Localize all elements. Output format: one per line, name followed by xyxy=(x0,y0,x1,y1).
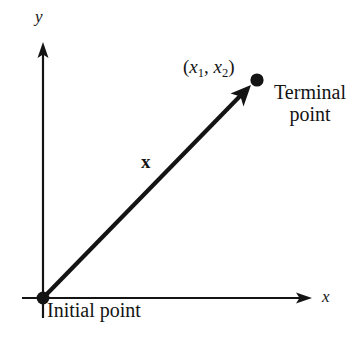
coordinate-first-variable: x xyxy=(189,56,197,77)
coordinate-second-variable: x xyxy=(214,56,222,77)
coordinate-comma: , xyxy=(204,56,214,77)
terminal-point-caption-line-2: point xyxy=(262,104,358,126)
initial-point-caption: Initial point xyxy=(47,300,141,321)
terminal-point-caption: Terminal point xyxy=(262,82,358,125)
coordinate-close-paren: ) xyxy=(228,56,234,77)
x-axis-label: x xyxy=(322,288,330,306)
vector-diagram xyxy=(0,0,361,340)
terminal-point-caption-line-1: Terminal xyxy=(262,82,358,104)
vector-label: x xyxy=(141,152,151,172)
terminal-point-coordinate-label: (x1, x2) xyxy=(183,57,235,80)
y-axis-label: y xyxy=(35,8,43,26)
